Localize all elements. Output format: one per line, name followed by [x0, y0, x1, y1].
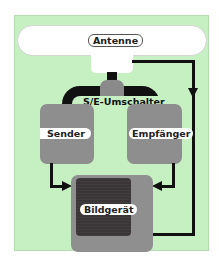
antenna-neck: [91, 55, 133, 73]
connector-right-vertical: [192, 60, 195, 236]
connector-receiver-down: [172, 163, 175, 187]
arrow-down-icon: [188, 88, 198, 98]
connector-sender-down: [50, 163, 53, 187]
antenna-label: Antenne: [88, 34, 143, 47]
display-label: Bildgerät: [80, 204, 137, 215]
sender-label: Sender: [40, 128, 91, 139]
receiver-label: Empfänger: [129, 128, 193, 139]
connector-antenna-right: [132, 60, 195, 63]
connector-right-to-display: [152, 233, 195, 236]
arrow-left-icon: [152, 181, 162, 191]
